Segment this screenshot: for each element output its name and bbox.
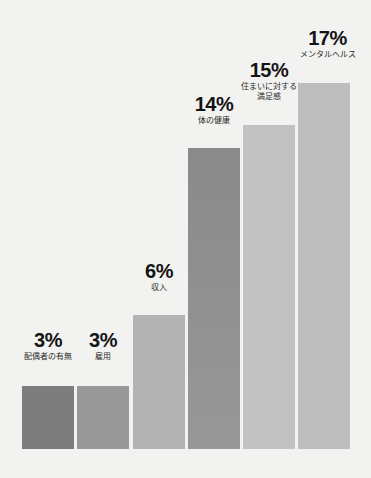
bar-group-5 <box>243 125 295 449</box>
bar-rect-1[interactable] <box>22 386 74 449</box>
bar-group-6 <box>298 83 350 449</box>
bar-group-2 <box>77 386 129 449</box>
bar-group-3 <box>133 315 185 449</box>
bar-rect-2[interactable] <box>77 386 129 449</box>
bar-rect-3[interactable] <box>133 315 185 449</box>
bar-label-6: メンタルヘルス <box>284 50 371 60</box>
bar-rect-5[interactable] <box>243 125 295 449</box>
chart-plot-area: 3% 配偶者の有無 3% 雇用 6% 収入 14% 体の健康 <box>0 0 371 478</box>
bar-rect-6[interactable] <box>298 83 350 449</box>
bar-rect-4[interactable] <box>188 148 240 449</box>
bar-annotation-6: 17% メンタルヘルス <box>284 28 371 60</box>
bar-label-3: 収入 <box>128 283 190 293</box>
bar-chart: 3% 配偶者の有無 3% 雇用 6% 収入 14% 体の健康 <box>0 0 371 478</box>
bar-value-3: 6% <box>128 261 190 281</box>
bar-label-2: 雇用 <box>72 352 134 362</box>
bar-group-4 <box>188 148 240 449</box>
bar-annotation-2: 3% 雇用 <box>72 330 134 362</box>
bar-annotation-3: 6% 収入 <box>128 261 190 293</box>
bar-label-4: 体の健康 <box>178 116 250 126</box>
bar-group-1 <box>22 386 74 449</box>
bar-value-6: 17% <box>284 28 371 48</box>
bar-value-5: 15% <box>228 60 310 80</box>
bar-value-2: 3% <box>72 330 134 350</box>
